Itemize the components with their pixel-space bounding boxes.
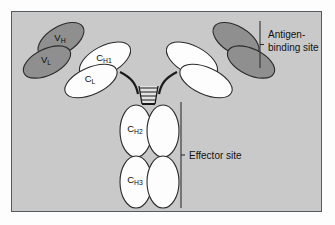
domain-ellipse-ch3-right (147, 156, 179, 208)
hinge-strand-left (120, 72, 138, 94)
bracket-effector-site (181, 102, 185, 208)
figure-frame: VH VL CH1 CL (11, 11, 322, 212)
callout-effector-site: Effector site (189, 150, 242, 161)
antibody-structure-diagram: VH VL CH1 CL (12, 12, 321, 211)
domain-heavy-constant3-right (147, 156, 179, 208)
callout-antigen-binding-site-line1: Antigen- (268, 29, 305, 40)
domain-heavy-constant2-right (147, 105, 179, 157)
figure-root: VH VL CH1 CL (0, 0, 335, 225)
hinge-region (120, 72, 177, 104)
callout-antigen-binding-site-line2: binding site (268, 42, 319, 53)
hinge-strand-right (159, 72, 177, 94)
domain-ellipse-ch2-right (147, 105, 179, 157)
